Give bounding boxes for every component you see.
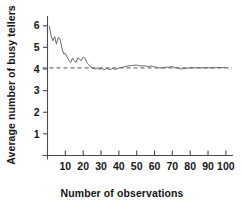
- x-tick-label: 70: [167, 160, 179, 172]
- y-tick-label: 6: [34, 19, 40, 31]
- y-tick-label: 5: [34, 41, 40, 53]
- x-tick-label: 90: [202, 160, 214, 172]
- y-tick-label: 1: [34, 128, 40, 140]
- y-tick-label-group: 123456: [34, 19, 40, 139]
- x-tick-label: 30: [95, 160, 107, 172]
- y-tick-label: 4: [34, 63, 40, 75]
- y-tick-label: 3: [34, 84, 40, 96]
- x-tick-label: 50: [131, 160, 143, 172]
- x-tick-label: 100: [217, 160, 235, 172]
- running-average-line: [49, 26, 226, 70]
- x-tick-label: 80: [184, 160, 196, 172]
- x-tick-label: 40: [113, 160, 125, 172]
- chart-figure: Average number of busy tellers Number of…: [0, 0, 244, 206]
- x-tick-label: 10: [59, 160, 71, 172]
- x-tick-label-group: 102030405060708090100: [59, 160, 234, 172]
- x-tick-label: 20: [77, 160, 89, 172]
- x-tick-label: 60: [149, 160, 161, 172]
- plot-area: 123456 102030405060708090100: [0, 0, 244, 206]
- y-tick-label: 2: [34, 106, 40, 118]
